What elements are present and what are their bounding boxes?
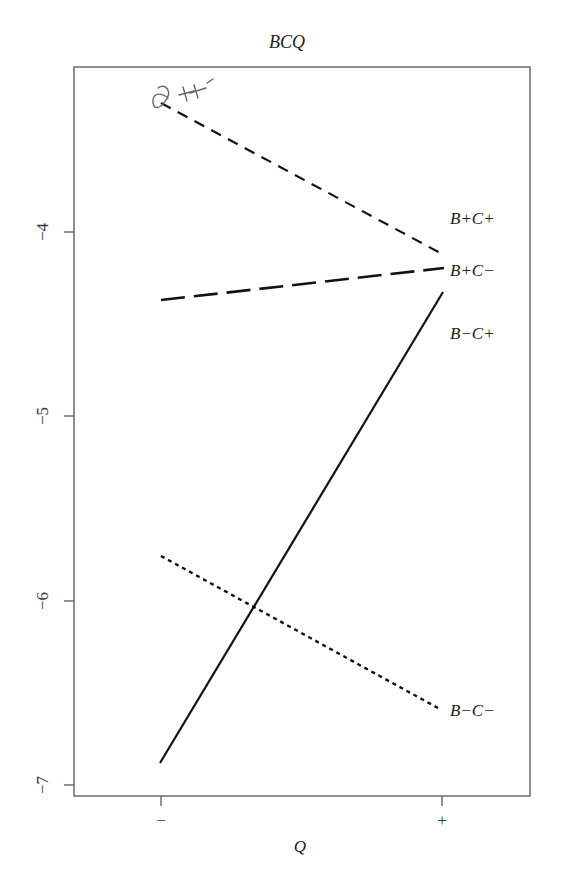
series-label: B−C+ [450,324,495,343]
x-axis [161,796,442,806]
interaction-plot: BCQ −4 −5 −6 −7 − + Q B+C+ B+C− B−C+ B−C… [0,0,563,884]
plot-frame [74,67,530,796]
y-tick-label: −7 [33,775,52,794]
series-line-bpcm [161,268,444,300]
series-line-bmcp [160,292,443,763]
chart-title: BCQ [269,32,305,52]
y-tick-label: −4 [33,222,52,241]
series-line-bpcp [161,103,444,255]
series-line-bmcm [161,556,438,708]
series-label: B+C+ [450,209,495,228]
series-label: B−C− [450,701,495,720]
x-tick-label: + [437,811,447,830]
x-axis-label: Q [294,837,306,856]
y-tick-label: −5 [33,407,52,425]
y-tick-label: −6 [33,592,52,610]
x-tick-label: − [156,811,166,830]
y-axis [64,232,74,785]
series-label: B+C− [450,261,495,280]
